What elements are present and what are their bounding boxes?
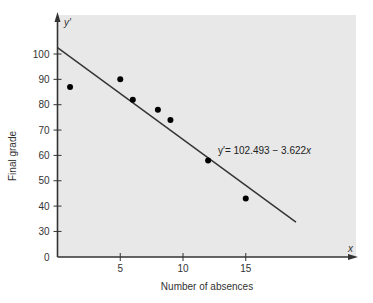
- x-tick-label: 15: [240, 263, 252, 274]
- x-axis-symbol: x: [347, 243, 354, 254]
- y-axis-title: Final grade: [7, 131, 18, 181]
- data-point: [67, 84, 73, 90]
- regression-equation-label: y′= 102.493 − 3.622x: [218, 145, 312, 156]
- y-tick-label: 30: [38, 226, 50, 237]
- y-tick-label: 90: [38, 74, 50, 85]
- regression-equation-main: y′= 102.493 − 3.622: [218, 145, 307, 156]
- scatter-chart: 03040506070809010051015 y′= 102.493 − 3.…: [0, 0, 373, 303]
- y-axis-symbol: y′: [63, 17, 72, 28]
- data-point: [130, 97, 136, 103]
- y-tick-label: 60: [38, 150, 50, 161]
- x-tick-label: 10: [177, 263, 189, 274]
- data-point: [243, 195, 249, 201]
- y-tick-label: 0: [44, 252, 50, 263]
- plot-background: [58, 15, 357, 257]
- y-tick-label: 70: [38, 125, 50, 136]
- y-tick-label: 50: [38, 175, 50, 186]
- y-tick-label: 100: [33, 49, 50, 60]
- y-tick-label: 40: [38, 201, 50, 212]
- data-point: [205, 157, 211, 163]
- regression-equation-variable: x: [305, 145, 312, 156]
- y-tick-label: 80: [38, 99, 50, 110]
- x-axis-title: Number of absences: [161, 281, 253, 292]
- data-point: [117, 76, 123, 82]
- x-tick-label: 5: [117, 263, 123, 274]
- data-point: [155, 107, 161, 113]
- data-point: [167, 117, 173, 123]
